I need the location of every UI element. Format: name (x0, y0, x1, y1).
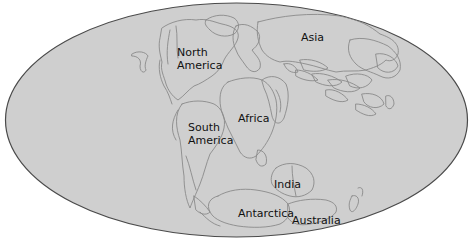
label-south-america: South America (188, 121, 233, 147)
world-map: North America Asia Africa South America … (0, 0, 474, 241)
map-oval-background (6, 3, 468, 237)
label-india: India (274, 178, 301, 191)
label-north-america-line1: North (177, 46, 222, 59)
label-north-america: North America (177, 46, 222, 72)
label-south-america-line2: America (188, 134, 233, 147)
label-north-america-line2: America (177, 59, 222, 72)
label-australia: Australia (292, 214, 341, 227)
label-africa: Africa (238, 112, 269, 125)
map-canvas (0, 0, 474, 241)
label-south-america-line1: South (188, 121, 233, 134)
label-asia: Asia (301, 31, 324, 44)
label-antarctica: Antarctica (238, 207, 294, 220)
